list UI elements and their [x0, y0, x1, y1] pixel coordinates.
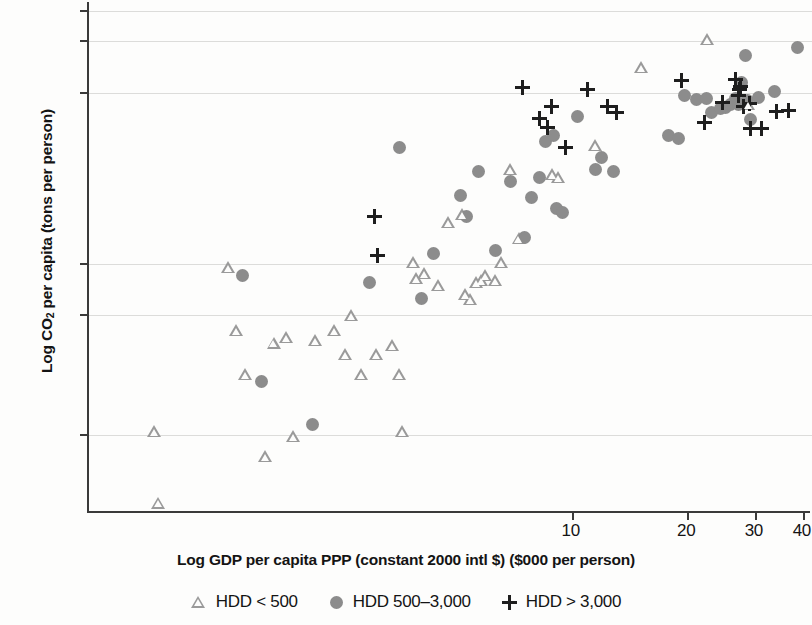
legend-label: HDD < 500: [216, 592, 298, 612]
chart-legend: HDD < 500HDD 500–3,000HDD > 3,000: [0, 592, 812, 612]
marker-circle: [393, 141, 406, 154]
x-axis-title: Log GDP per capita PPP (constant 2000 in…: [0, 551, 812, 569]
marker-plus: [558, 140, 573, 155]
marker-triangle: [147, 425, 161, 437]
marker-triangle: [589, 139, 603, 151]
legend-marker-plus-icon: [502, 595, 517, 610]
legend-item: HDD > 3,000: [501, 592, 621, 612]
marker-triangle: [418, 267, 432, 279]
x-tick: [755, 511, 757, 520]
marker-plus: [540, 120, 555, 135]
marker-circle: [607, 165, 620, 178]
marker-triangle: [308, 334, 322, 346]
marker-plus: [715, 95, 730, 110]
marker-plus: [781, 103, 796, 118]
chart-figure: Log CO2 per capita (tons per person) 0.1…: [0, 0, 812, 625]
plot-area: [87, 2, 810, 513]
legend-marker: [501, 595, 518, 610]
marker-circle: [768, 85, 781, 98]
y-tick: [80, 92, 89, 94]
y-tick: [80, 434, 89, 436]
legend-label: HDD 500–3,000: [353, 592, 471, 612]
marker-circle: [525, 191, 538, 204]
marker-plus: [515, 80, 530, 95]
marker-circle: [589, 163, 602, 176]
marker-circle: [533, 171, 546, 184]
y-tick: [80, 314, 89, 316]
marker-circle: [489, 244, 502, 257]
legend-item: HDD 500–3,000: [328, 592, 471, 612]
marker-triangle: [494, 256, 508, 268]
x-tick: [803, 511, 805, 520]
legend-marker: [328, 595, 345, 610]
y-tick: [80, 40, 89, 42]
marker-triangle: [354, 368, 368, 380]
marker-circle: [472, 165, 485, 178]
marker-triangle: [345, 309, 359, 321]
marker-circle: [556, 206, 569, 219]
marker-triangle: [489, 274, 503, 286]
marker-triangle: [393, 368, 407, 380]
marker-triangle: [385, 339, 399, 351]
x-tick-label: 10: [541, 521, 601, 541]
marker-plus: [544, 99, 559, 114]
y-tick: [80, 263, 89, 265]
legend-label: HDD > 3,000: [526, 592, 621, 612]
marker-plus: [674, 73, 689, 88]
marker-triangle: [432, 279, 446, 291]
marker-plus: [697, 115, 712, 130]
marker-circle: [306, 418, 319, 431]
gridline: [89, 11, 812, 12]
marker-plus: [609, 105, 624, 120]
legend-item: HDD < 500: [191, 592, 298, 612]
marker-triangle: [395, 425, 409, 437]
gridline: [89, 264, 812, 265]
marker-circle: [672, 132, 685, 145]
marker-circle: [739, 49, 752, 62]
marker-triangle: [279, 331, 293, 343]
gridline: [89, 435, 812, 436]
marker-circle: [595, 151, 608, 164]
x-tick: [572, 511, 574, 520]
legend-marker-circle-icon: [330, 596, 343, 609]
y-tick: [80, 10, 89, 12]
marker-triangle: [338, 348, 352, 360]
marker-circle: [255, 375, 268, 388]
marker-circle: [236, 269, 249, 282]
marker-circle: [454, 189, 467, 202]
marker-plus: [754, 121, 769, 136]
marker-circle: [700, 92, 713, 105]
x-tick-label: 20: [656, 521, 716, 541]
marker-triangle: [635, 61, 649, 73]
marker-plus: [370, 248, 385, 263]
marker-circle: [415, 292, 428, 305]
marker-circle: [363, 276, 376, 289]
marker-triangle: [259, 450, 273, 462]
gridline: [89, 315, 812, 316]
marker-triangle: [328, 324, 342, 336]
legend-marker-triangle-icon: [192, 596, 206, 608]
marker-triangle: [369, 348, 383, 360]
x-tick-label: 40: [772, 521, 812, 541]
y-axis-title-sub: 2: [44, 313, 56, 319]
marker-circle: [791, 41, 804, 54]
marker-plus: [733, 79, 748, 94]
y-axis-title-pre: Log CO: [38, 318, 55, 373]
marker-plus: [367, 209, 382, 224]
marker-circle: [571, 110, 584, 123]
marker-triangle: [700, 33, 714, 45]
marker-triangle: [151, 497, 165, 509]
x-tick: [687, 511, 689, 520]
y-axis-title: Log CO2 per capita (tons per person): [38, 26, 56, 456]
marker-triangle: [287, 430, 301, 442]
marker-circle: [678, 89, 691, 102]
marker-circle: [427, 247, 440, 260]
marker-triangle: [222, 261, 236, 273]
marker-triangle: [441, 216, 455, 228]
marker-triangle: [239, 368, 253, 380]
marker-triangle: [503, 163, 517, 175]
marker-plus: [580, 82, 595, 97]
y-axis-title-post: per capita (tons per person): [38, 109, 55, 313]
legend-marker: [191, 595, 208, 610]
marker-triangle: [230, 324, 244, 336]
